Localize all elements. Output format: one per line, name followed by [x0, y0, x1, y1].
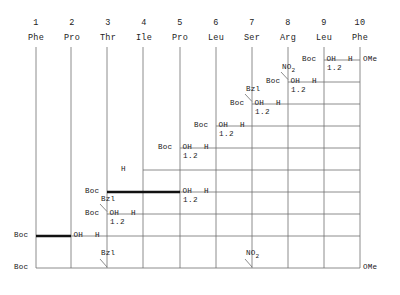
step-bzl-col7-pg-connector: [245, 94, 252, 102]
step-bzl-col7-ratio: 1.2: [255, 108, 270, 116]
step-bzl-col7-h-label: H: [276, 99, 281, 107]
step-final-col1-right-label: OMe: [363, 263, 377, 271]
step-col6-ratio: 1.2: [219, 130, 234, 138]
step-bzl-col7-oh-label: OH: [255, 99, 265, 107]
step-bold-col1-col2-h-label: H: [95, 231, 100, 239]
step-bold-col3-col5-left-label: Boc: [85, 187, 99, 195]
step-col5-h-label: H: [204, 143, 209, 151]
step-no2-col8-ratio: 1.2: [291, 86, 306, 94]
step-bzl-col3-pg-connector: [100, 204, 107, 212]
step-bzl-col3-oh-label: OH: [110, 209, 120, 217]
step-col5-left-label: Boc: [158, 143, 172, 151]
bottom-no2-label: NO2: [246, 249, 259, 260]
step-bold-col1-col2-left-label: Boc: [14, 231, 28, 239]
step-col6-oh-label: OH: [219, 121, 229, 129]
step-col6-left-label: Boc: [194, 121, 208, 129]
step-bzl-col7-protecting-group: Bzl: [246, 85, 260, 93]
step-col6-h-label: H: [240, 121, 245, 129]
bottom-no2-connector: [245, 259, 252, 267]
step-no2-col8-left-label: Boc: [266, 77, 280, 85]
step-bold-col3-col5-h-label: H: [204, 187, 209, 195]
step-no2-col8-oh-label: OH: [291, 77, 301, 85]
step-boc-ome-col9-left-label: Boc: [302, 55, 316, 63]
step-boc-ome-col9-ratio: 1.2: [327, 64, 342, 72]
step-bzl-col3-protecting-group: Bzl: [101, 195, 115, 203]
step-no2-col8-h-label: H: [312, 77, 317, 85]
step-bzl-col3-ratio: 1.2: [110, 218, 125, 226]
step-col5-ratio: 1.2: [183, 152, 198, 160]
step-boc-ome-col9-h-label: H: [348, 55, 353, 63]
scheme-grid: [0, 0, 400, 295]
step-bzl-col7-left-label: Boc: [230, 99, 244, 107]
bottom-bzl-label: Bzl: [101, 249, 115, 257]
step-no2-col8-protecting-group: NO2: [282, 63, 295, 74]
step-bold-col3-col5-ratio: 1.2: [183, 196, 198, 204]
step-bzl-col3-h-label: H: [131, 209, 136, 217]
step-boc-ome-col9-right-label: OMe: [363, 55, 377, 63]
step-bzl-col3-left-label: Boc: [85, 209, 99, 217]
step-h-col4-left-label: H: [121, 165, 126, 173]
step-bold-col3-col5-oh-label: OH: [183, 187, 193, 195]
bottom-bzl-connector: [100, 259, 107, 267]
step-bold-col1-col2-oh-label: OH: [74, 231, 84, 239]
step-col5-oh-label: OH: [183, 143, 193, 151]
step-final-col1-left-label: Boc: [14, 263, 28, 271]
step-boc-ome-col9-oh-label: OH: [327, 55, 337, 63]
